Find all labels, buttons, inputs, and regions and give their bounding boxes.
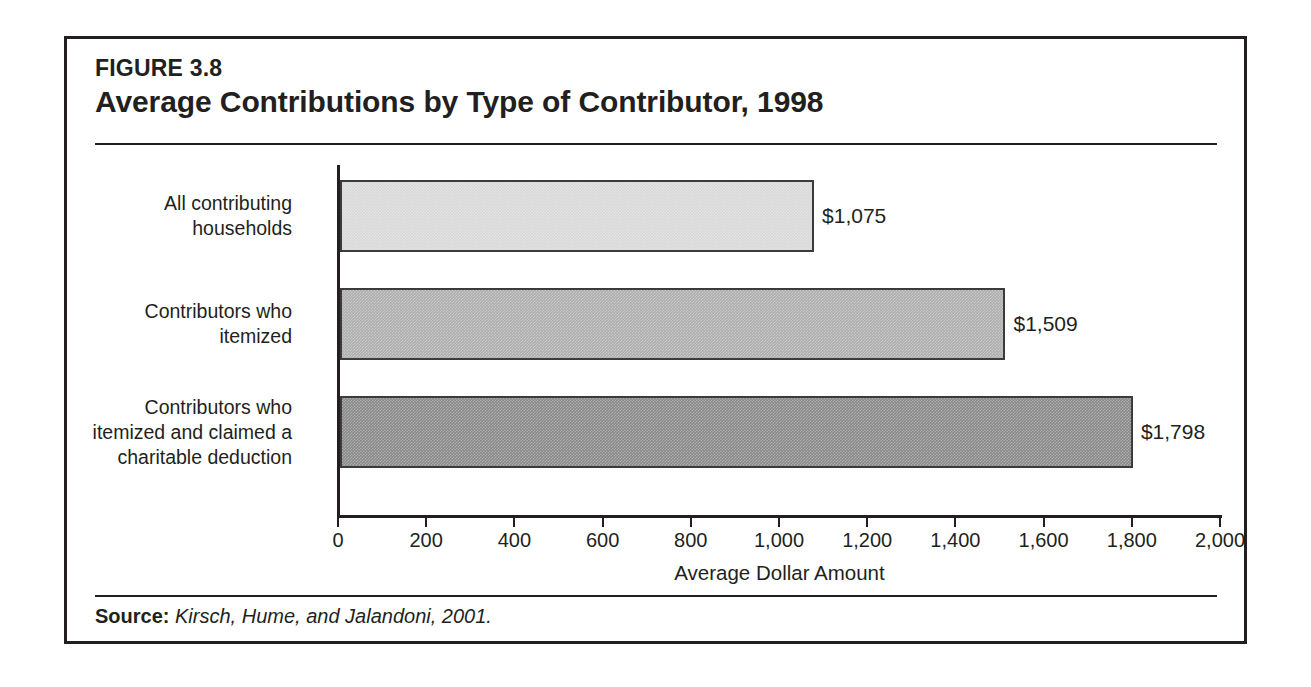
chart-plot-area: All contributing households $1,075 Contr… xyxy=(67,39,1244,641)
category-label-1: Contributors who itemized xyxy=(0,299,292,349)
x-tick-mark xyxy=(1043,518,1045,527)
source-divider xyxy=(95,595,1217,597)
bar-all-contributing-households[interactable] xyxy=(340,180,814,252)
x-tick-label: 1,000 xyxy=(754,529,804,552)
x-tick-label: 1,400 xyxy=(930,529,980,552)
x-tick-mark xyxy=(778,518,780,527)
x-tick-mark xyxy=(513,518,515,527)
x-tick-label: 1,800 xyxy=(1107,529,1157,552)
bar-row: Contributors who itemized $1,509 xyxy=(67,287,1244,361)
bar-row: All contributing households $1,075 xyxy=(67,179,1244,253)
x-tick-label: 400 xyxy=(498,529,531,552)
x-tick-mark xyxy=(337,518,339,527)
x-tick-label: 1,600 xyxy=(1019,529,1069,552)
x-axis-title: Average Dollar Amount xyxy=(337,561,1222,585)
x-tick-label: 0 xyxy=(332,529,343,552)
bar-value-label-2: $1,798 xyxy=(1133,420,1205,444)
category-label-0: All contributing households xyxy=(0,191,292,241)
category-label-2: Contributors who itemized and claimed a … xyxy=(0,395,292,470)
x-tick-mark xyxy=(1219,518,1221,527)
x-tick-label: 1,200 xyxy=(842,529,892,552)
x-tick-label: 600 xyxy=(586,529,619,552)
x-tick-mark xyxy=(954,518,956,527)
x-tick-mark xyxy=(425,518,427,527)
source-label: Source: xyxy=(95,605,169,627)
bar-value-label-1: $1,509 xyxy=(1005,312,1077,336)
x-tick-label: 2,000 xyxy=(1195,529,1245,552)
figure-frame: FIGURE 3.8 Average Contributions by Type… xyxy=(64,36,1247,644)
bar-value-label-0: $1,075 xyxy=(814,204,886,228)
source-note: Source: Kirsch, Hume, and Jalandoni, 200… xyxy=(95,605,492,628)
bar-contributors-who-itemized[interactable] xyxy=(340,288,1005,360)
x-tick-mark xyxy=(1131,518,1133,527)
bar-contributors-itemized-charitable-deduction[interactable] xyxy=(340,396,1133,468)
x-tick-mark xyxy=(602,518,604,527)
x-tick-mark xyxy=(690,518,692,527)
x-tick-label: 800 xyxy=(674,529,707,552)
x-tick-label: 200 xyxy=(410,529,443,552)
bar-row: Contributors who itemized and claimed a … xyxy=(67,395,1244,469)
source-citation: Kirsch, Hume, and Jalandoni, 2001. xyxy=(175,605,492,627)
x-tick-mark xyxy=(866,518,868,527)
